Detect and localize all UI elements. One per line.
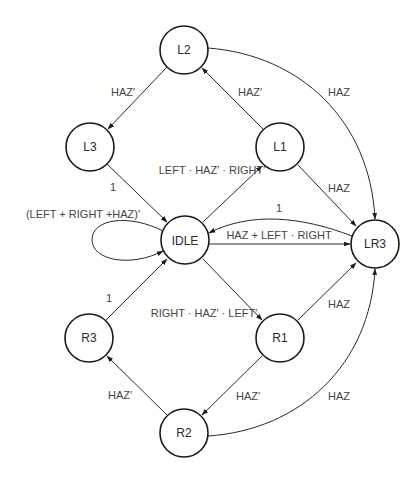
node-label: L2 (177, 43, 191, 57)
node-R2: R2 (160, 409, 208, 457)
edge-L1-L2 (202, 68, 263, 129)
node-label: L1 (273, 140, 287, 154)
node-L1: L1 (256, 123, 304, 171)
edge-L1-LR3 (298, 165, 356, 226)
label-R1-LR3: HAZ (328, 298, 350, 310)
node-label: R2 (176, 426, 192, 440)
edge-R1-LR3 (298, 263, 356, 320)
label-LR3-IDLE: 1 (276, 202, 282, 214)
node-R3: R3 (65, 314, 113, 362)
label-IDLE-LR3: HAZ + LEFT · RIGHT (226, 229, 332, 241)
node-L2: L2 (160, 26, 208, 74)
node-label: IDLE (172, 234, 199, 248)
label-L1-LR3: HAZ (328, 182, 350, 194)
label-L1-L2: HAZ′ (238, 86, 262, 98)
label-L2-L3: HAZ′ (111, 86, 135, 98)
edge-L2-L3 (108, 67, 167, 129)
state-diagram: HAZ′ HAZ′ HAZ 1 LEFT · HAZ′ · RIGHT′ HAZ… (0, 0, 419, 480)
edge-R1-R2 (202, 356, 262, 415)
label-IDLE-IDLE: (LEFT + RIGHT +HAZ)′ (26, 208, 140, 220)
node-IDLE: IDLE (161, 216, 209, 264)
node-LR3: LR3 (351, 220, 399, 268)
label-R2-LR3: HAZ (328, 390, 350, 402)
edge-R2-R3 (107, 356, 167, 415)
label-L3-IDLE: 1 (110, 181, 116, 193)
node-label: L3 (83, 140, 97, 154)
node-R1: R1 (256, 314, 304, 362)
label-IDLE-L1: LEFT · HAZ′ · RIGHT′ (159, 164, 266, 176)
label-L2-LR3: HAZ (328, 86, 350, 98)
label-R2-R3: HAZ′ (108, 389, 132, 401)
label-R1-R2: HAZ′ (236, 390, 260, 402)
node-label: LR3 (364, 237, 386, 251)
edge-IDLE-IDLE (92, 220, 163, 260)
edges (92, 48, 375, 436)
label-IDLE-R1: RIGHT · HAZ′ · LEFT′ (151, 307, 258, 319)
node-label: R1 (272, 331, 288, 345)
node-label: R3 (81, 331, 97, 345)
label-R3-IDLE: 1 (106, 292, 112, 304)
node-L3: L3 (66, 123, 114, 171)
